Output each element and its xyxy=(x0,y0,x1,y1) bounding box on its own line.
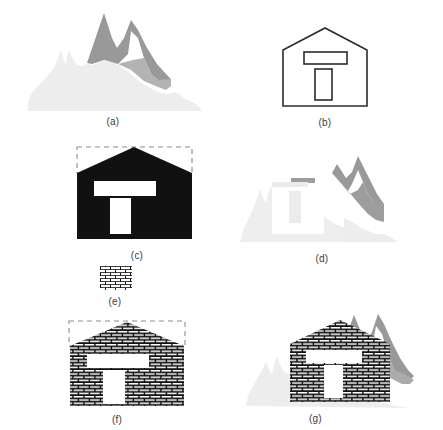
panel-d: (d) xyxy=(232,146,412,271)
brick-texture-swatch xyxy=(96,264,178,294)
panel-b: (b) xyxy=(255,22,395,137)
brick-house-composited-on-mountains xyxy=(242,314,417,412)
house-window-white xyxy=(94,181,156,196)
eroded-right-foreground xyxy=(344,218,398,242)
house-door-outline xyxy=(315,69,332,100)
erosion-residue-bar-light xyxy=(272,182,308,187)
panel-f-caption: (f) xyxy=(42,414,192,425)
panel-c-caption: (c) xyxy=(72,250,202,261)
house-door-white xyxy=(103,370,125,404)
panel-g-caption: (g) xyxy=(228,413,403,424)
panel-b-caption: (b) xyxy=(255,117,395,128)
house-brick-textured-with-bounding-box xyxy=(62,318,212,413)
house-door-white xyxy=(110,198,131,234)
house-door-white xyxy=(324,365,343,398)
panel-e: (e) xyxy=(96,264,178,310)
house-outline xyxy=(255,22,395,114)
brick-swatch-rect xyxy=(100,266,132,290)
erosion-residue-stem xyxy=(289,191,301,223)
panel-e-caption: (e) xyxy=(74,296,156,307)
mountain-scene-eroded xyxy=(232,146,412,251)
house-window-outline xyxy=(304,52,347,64)
house-window-white xyxy=(87,354,149,368)
panel-a-caption: (a) xyxy=(18,116,208,127)
house-outline-body xyxy=(283,28,367,106)
panel-g: (g) xyxy=(242,314,417,430)
panel-a: (a) xyxy=(18,8,208,133)
house-solid-black-with-bounding-box xyxy=(72,143,202,248)
panel-c: (c) xyxy=(72,143,202,268)
panel-d-caption: (d) xyxy=(232,253,412,264)
house-window-white xyxy=(306,350,362,363)
mountain-scene-original xyxy=(18,8,208,113)
panel-f: (f) xyxy=(62,318,212,430)
